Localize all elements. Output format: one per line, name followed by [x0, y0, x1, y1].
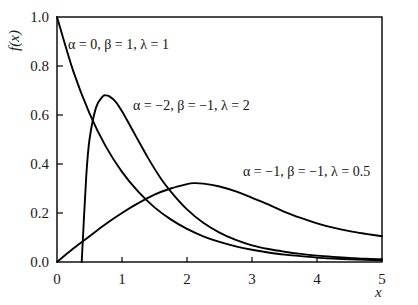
y-tick-label: 0.2 [9, 206, 49, 221]
y-tick-label: 1.0 [9, 10, 49, 25]
x-tick-label: 5 [369, 272, 395, 287]
curve-annotation-1: α = 0, β = 1, λ = 1 [68, 38, 169, 52]
curve-annotation-2: α = −2, β = −1, λ = 2 [133, 99, 250, 113]
y-axis-ticks [57, 66, 63, 213]
curve-series-3 [57, 183, 382, 262]
plot-border [57, 17, 382, 262]
curve-annotation-3: α = −1, β = −1, λ = 0.5 [243, 165, 370, 179]
y-tick-label: 0.6 [9, 108, 49, 123]
x-tick-label: 3 [239, 272, 265, 287]
x-axis-title: x [375, 285, 382, 300]
y-axis-title: f(x) [7, 30, 22, 51]
x-tick-label: 0 [44, 272, 70, 287]
y-tick-label: 0.8 [9, 59, 49, 74]
x-tick-label: 1 [109, 272, 135, 287]
data-curves [57, 17, 382, 262]
y-tick-label: 0.4 [9, 157, 49, 172]
chart-figure: 0.00.20.40.60.81.0 012345 α = 0, β = 1, … [0, 0, 418, 305]
x-tick-label: 4 [304, 272, 330, 287]
x-axis-ticks [122, 257, 317, 262]
x-tick-label: 2 [174, 272, 200, 287]
plot-canvas [0, 0, 418, 305]
y-tick-label: 0.0 [9, 255, 49, 270]
plot-frame [57, 17, 382, 262]
